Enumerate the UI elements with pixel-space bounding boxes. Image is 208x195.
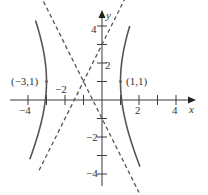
axes [10, 10, 196, 186]
x-tick-label-2: 2 [135, 104, 141, 116]
y-axis-arrow-icon [99, 10, 106, 18]
vertex-right-point [119, 80, 122, 83]
asymptote-negative-slope [37, 0, 139, 193]
y-axis-label: y [105, 9, 111, 21]
vertex-right-label: (1,1) [126, 75, 147, 88]
hyperbola-graph: x y (−3,1) (1,1) −4 −2 2 4 4 2 −2 −4 [0, 0, 208, 195]
hyperbola-left-branch [30, 20, 47, 159]
x-tick-label-neg2: −2 [55, 83, 67, 95]
x-tick-label-neg4: −4 [19, 104, 31, 116]
x-tick-label-4: 4 [172, 104, 178, 116]
x-axis-label: x [188, 103, 194, 115]
asymptote-positive-slope [39, 0, 125, 170]
y-tick-label-2: 2 [105, 59, 111, 71]
hyperbola-right-branch [121, 26, 140, 167]
y-tick-label-neg4: −4 [86, 167, 98, 179]
asymptotes [37, 0, 139, 193]
y-tick-label-4: 4 [91, 23, 97, 35]
y-tick-label-neg2: −2 [86, 131, 98, 143]
vertex-left-label: (−3,1) [11, 75, 39, 88]
hyperbola-branches [30, 20, 140, 166]
vertex-left-point [45, 80, 48, 83]
